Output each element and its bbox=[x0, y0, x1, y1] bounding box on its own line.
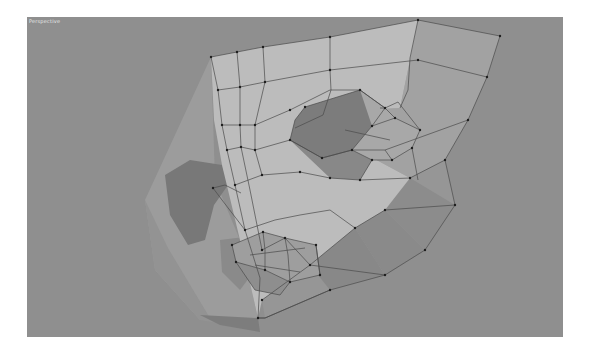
mesh-canvas[interactable] bbox=[27, 17, 563, 337]
3d-viewport[interactable]: Perspective bbox=[27, 17, 563, 337]
